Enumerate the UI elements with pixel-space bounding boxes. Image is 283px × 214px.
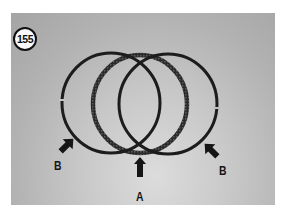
label-a: A	[136, 189, 144, 204]
label-b-right: B	[219, 163, 227, 178]
piston-rings-photo: 155 B A B	[11, 13, 275, 205]
left-ring-gap	[59, 99, 65, 101]
rings-illustration	[11, 13, 275, 205]
middle-oil-ring	[93, 55, 187, 153]
arrow-b-right-icon	[200, 139, 223, 162]
right-ring-gap	[214, 107, 220, 109]
figure-number-badge: 155	[13, 27, 37, 51]
arrow-a-icon	[134, 157, 146, 177]
label-b-left: B	[54, 158, 62, 173]
right-compression-ring	[119, 54, 217, 154]
